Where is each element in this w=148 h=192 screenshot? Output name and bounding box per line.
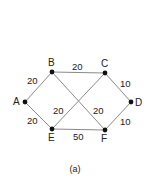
edge-weight-b-c: 20 — [72, 61, 83, 72]
edge-weight-a-b: 20 — [27, 75, 38, 86]
edge-weight-f-d: 10 — [120, 116, 131, 127]
node-a-dot-icon — [23, 100, 28, 105]
node-f-dot-icon — [103, 128, 108, 133]
edge-e-f — [52, 129, 105, 130]
node-label-e: E — [48, 132, 55, 143]
node-label-a: A — [13, 96, 20, 107]
node-label-c: C — [101, 58, 108, 69]
edge-weight-a-e: 20 — [27, 115, 38, 126]
node-label-f: F — [101, 133, 107, 144]
node-d-dot-icon — [129, 100, 134, 105]
node-c-dot-icon — [103, 71, 108, 76]
node-b-dot-icon — [50, 70, 55, 75]
edge-weight-e-f: 50 — [73, 131, 84, 142]
graph-edges — [25, 72, 131, 130]
figure-caption: (a) — [70, 164, 81, 174]
graph-diagram: 2020201050102020 ABCDEF (a) — [0, 0, 148, 192]
edge-weight-c-d: 10 — [120, 78, 131, 89]
edge-b-c — [52, 72, 105, 73]
node-e-dot-icon — [50, 127, 55, 132]
edge-weight-e-c: 20 — [53, 105, 64, 116]
node-label-b: B — [48, 57, 55, 68]
node-label-d: D — [135, 97, 142, 108]
edge-weight-b-f: 20 — [93, 105, 104, 116]
